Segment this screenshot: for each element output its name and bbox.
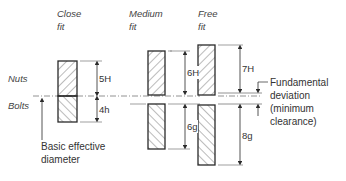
free-fit-bolt-tolerance: 8g bbox=[242, 129, 253, 142]
fundamental-deviation-line2: deviation bbox=[270, 89, 328, 102]
medium-fit-title-line1: Medium bbox=[129, 7, 163, 20]
close-fit-nut-tolerance: 5H bbox=[99, 72, 111, 85]
medium-fit-nut-zone bbox=[148, 51, 165, 95]
fundamental-deviation-line1: Fundamental bbox=[270, 76, 328, 89]
basic-diameter-line2: diameter bbox=[41, 153, 105, 166]
medium-fit-bolt-tolerance: 6g bbox=[187, 120, 198, 133]
free-fit-title-line1: Free bbox=[198, 7, 218, 20]
free-fit-bolt-zone bbox=[198, 105, 215, 165]
close-fit-title-line2: fit bbox=[57, 20, 81, 33]
basic-diameter-label: Basic effective diameter bbox=[41, 140, 105, 166]
fundamental-deviation-line3: (minimum bbox=[270, 102, 328, 115]
close-fit-title: Close fit bbox=[57, 7, 81, 33]
free-fit-title: Free fit bbox=[198, 7, 218, 33]
bolts-label: Bolts bbox=[8, 99, 29, 112]
close-fit-bolt-zone bbox=[58, 96, 77, 122]
close-fit-title-line1: Close bbox=[57, 7, 81, 20]
medium-fit-bolt-zone bbox=[148, 104, 165, 149]
medium-fit-nut-tolerance: 6H bbox=[187, 66, 199, 79]
free-fit-title-line2: fit bbox=[198, 20, 218, 33]
medium-fit-title-line2: fit bbox=[129, 20, 163, 33]
basic-diameter-line1: Basic effective bbox=[41, 140, 105, 153]
fundamental-deviation-line4: clearance) bbox=[270, 115, 328, 128]
fundamental-deviation-label: Fundamental deviation (minimum clearance… bbox=[270, 76, 328, 128]
nuts-label: Nuts bbox=[8, 72, 28, 85]
free-fit-nut-zone bbox=[198, 45, 215, 95]
free-fit-nut-tolerance: 7H bbox=[242, 62, 254, 75]
medium-fit-title: Medium fit bbox=[129, 7, 163, 33]
close-fit-nut-zone bbox=[58, 61, 77, 96]
close-fit-bolt-tolerance: 4h bbox=[99, 103, 110, 116]
